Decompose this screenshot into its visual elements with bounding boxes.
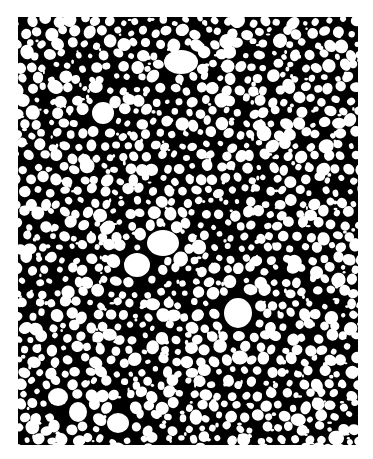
bubble-texture-image <box>18 17 358 445</box>
bubble-pattern <box>18 17 358 445</box>
